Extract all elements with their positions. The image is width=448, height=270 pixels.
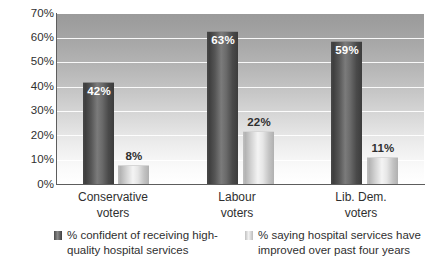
- legend-swatch-icon: [245, 231, 253, 240]
- plot-area: 42% 8% 63% 22% 59% 11%: [57, 14, 424, 184]
- y-tick-label: 40%: [2, 81, 54, 93]
- bar-group-labour: 63% 22%: [207, 14, 299, 184]
- legend-swatch-icon: [54, 231, 62, 240]
- bar-lib-dem-improved: [367, 157, 398, 184]
- y-axis-line: [56, 13, 57, 185]
- bar-value-conservative-confident: 42%: [76, 85, 122, 97]
- legend-label-line1: % saying hospital services have: [258, 229, 421, 241]
- category-label-line2: voters: [291, 206, 431, 222]
- bar-value-labour-improved: 22%: [236, 116, 282, 128]
- bar-group-conservative: 42% 8%: [83, 14, 175, 184]
- bar-chart: 70% 60% 50% 40% 30% 20% 10% 0% 42% 8% 63…: [0, 0, 448, 270]
- bar-conservative-improved: [118, 165, 149, 184]
- y-tick-label: 10%: [2, 154, 54, 166]
- y-tick-label: 0%: [2, 179, 54, 191]
- y-tick-label: 60%: [2, 32, 54, 44]
- legend-label-improved: % saying hospital services have improved…: [258, 228, 421, 257]
- bar-labour-confident: [207, 31, 238, 184]
- bar-value-lib-dem-confident: 59%: [324, 44, 370, 56]
- bar-value-lib-dem-improved: 11%: [360, 142, 406, 154]
- bar-conservative-confident: [83, 82, 114, 184]
- legend-label-line2: improved over past four years: [258, 243, 421, 258]
- legend-item-confident: % confident of receiving high- quality h…: [54, 228, 218, 257]
- category-label-line1: Lib. Dem.: [335, 190, 386, 204]
- bar-labour-improved: [243, 131, 274, 184]
- y-tick-label: 20%: [2, 130, 54, 142]
- category-label-line1: Labour: [218, 190, 255, 204]
- x-axis-label-conservative: Conservative voters: [43, 190, 183, 221]
- category-label-line2: voters: [43, 206, 183, 222]
- legend-label-confident: % confident of receiving high- quality h…: [67, 228, 218, 257]
- bar-group-lib-dem: 59% 11%: [331, 14, 423, 184]
- x-axis-label-labour: Labour voters: [167, 190, 307, 221]
- bar-lib-dem-confident: [331, 41, 362, 184]
- legend-label-line2: quality hospital services: [67, 243, 218, 258]
- y-tick-label: 70%: [2, 8, 54, 20]
- y-tick-label: 30%: [2, 105, 54, 117]
- bar-value-conservative-improved: 8%: [111, 150, 157, 162]
- bar-value-labour-confident: 63%: [200, 34, 246, 46]
- legend-label-line1: % confident of receiving high-: [67, 229, 218, 241]
- x-axis-line: [56, 184, 425, 185]
- category-label-line2: voters: [167, 206, 307, 222]
- y-tick-label: 50%: [2, 56, 54, 68]
- legend-item-improved: % saying hospital services have improved…: [245, 228, 421, 257]
- x-axis-label-lib-dem: Lib. Dem. voters: [291, 190, 431, 221]
- chart-legend: % confident of receiving high- quality h…: [0, 228, 448, 268]
- category-label-line1: Conservative: [78, 190, 148, 204]
